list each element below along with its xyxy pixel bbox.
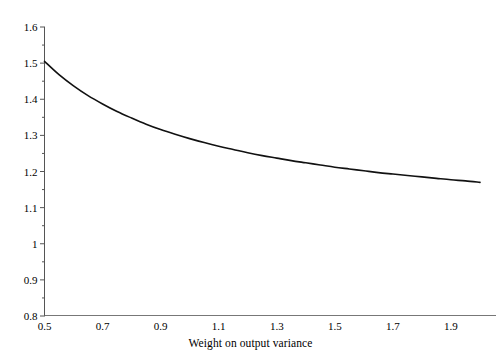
y-axis-tick-label: 1.4 [24,94,38,105]
x-axis-tick-label: 0.9 [154,321,168,332]
x-axis-tick-label: 1.7 [386,321,400,332]
y-axis-tick-label: 0.9 [24,274,38,285]
x-axis-title: Weight on output variance [0,337,501,349]
axis-lines [45,27,497,316]
x-axis-tick-label: 1.9 [444,321,458,332]
x-axis-tick-label: 0.5 [38,321,52,332]
x-axis-tick-label: 0.7 [96,321,110,332]
x-axis-tick-label: 1.3 [270,321,284,332]
x-axis-tick-label: 1.5 [328,321,342,332]
y-axis-tick-label: 1.6 [24,22,38,33]
y-axis-tick-label: 1.5 [24,58,38,69]
plot-area [0,0,501,363]
y-axis-tick-label: 1.1 [24,202,38,213]
chart-figure: 0.80.911.11.21.31.41.51.6 0.50.70.91.11.… [0,0,501,363]
y-axis-tick-label: 1.2 [24,166,38,177]
y-axis-tick-label: 0.8 [24,311,38,322]
data-series-curve [45,61,481,182]
y-axis-tick-label: 1.3 [24,130,38,141]
y-axis-tick-label: 1 [32,238,38,249]
x-axis-tick-label: 1.1 [212,321,226,332]
